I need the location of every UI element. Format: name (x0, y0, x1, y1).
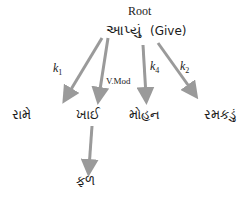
node-khai: ખાઈ (76, 108, 100, 121)
edge-label-k4: k4 (150, 60, 159, 75)
arrow-vmod (99, 38, 108, 96)
node-ramakdu: રમકડું (204, 108, 236, 121)
arrow-fal (89, 126, 92, 168)
arrow-k1 (67, 38, 102, 96)
edge-label-k1: k1 (53, 62, 62, 77)
root-word: આપ્યું (106, 23, 141, 37)
edge-label-vmod: V.Mod (106, 77, 131, 86)
edge-arrows (67, 38, 193, 168)
root-gloss: (Give) (150, 25, 186, 37)
node-rame: રામે (12, 108, 31, 121)
edge-label-k2: k2 (180, 60, 189, 75)
arrow-k4 (143, 45, 146, 96)
root-label: Root (128, 5, 151, 17)
node-mohan: મોહન (129, 108, 160, 121)
dependency-tree-diagram: Root આપ્યું (Give) k1 V.Mod k4 k2 રામે ખ… (0, 0, 246, 197)
node-fal: ફળ (76, 174, 95, 187)
